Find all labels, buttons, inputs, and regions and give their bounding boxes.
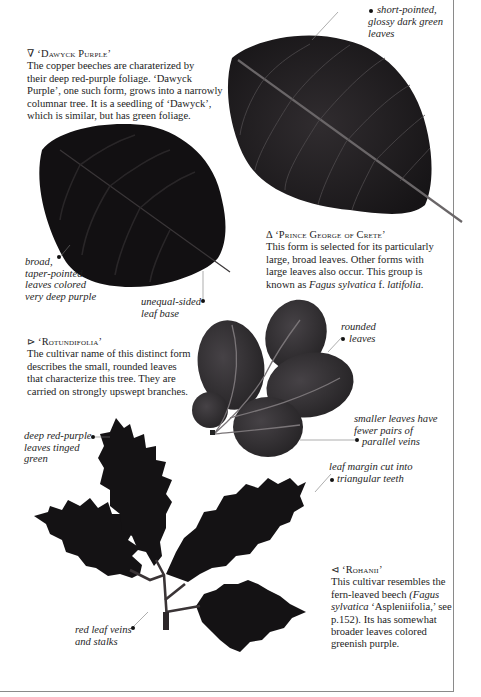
callout-dot	[201, 299, 205, 303]
annotation-red-veins: red leaf veins and stalks	[75, 624, 132, 647]
entry-dawyck-purple: ∇ ‘Dawyck Purple’ The copper beeches are…	[27, 48, 237, 122]
entry-title: ⊲ ‘Rohanii’	[331, 564, 456, 576]
annotation-unequal-sided: unequal-sided leaf base	[141, 296, 201, 319]
leaf-prince-george	[228, 35, 462, 222]
triangle-down-icon: ∇	[27, 48, 34, 59]
entry-title: ⊳ ‘Rotundifolia’	[27, 336, 207, 348]
triangle-left-icon: ⊲	[331, 564, 339, 575]
triangle-up-icon: Δ	[266, 229, 272, 240]
annotation-leaf-margin: leaf margin cut into triangular teeth	[329, 461, 412, 484]
annotation-short-pointed-cont: glossy dark green leaves	[368, 16, 443, 39]
annotation-smaller-leaves: smaller leaves have fewer pairs of paral…	[354, 413, 438, 448]
entry-prince-george-of-crete: Δ ‘Prince George of Crete’ This form is …	[266, 229, 456, 291]
leaf-rotundifolia	[191, 291, 360, 457]
triangle-right-icon: ⊳	[27, 336, 35, 347]
annotation-broad-taper-pointed: broad, taper-pointed leaves colored very…	[25, 256, 96, 302]
entry-rotundifolia: ⊳ ‘Rotundifolia’ The cultivar name of th…	[27, 336, 207, 398]
entry-title: Δ ‘Prince George of Crete’	[266, 229, 456, 241]
entry-rohanii: ⊲ ‘Rohanii’ This cultivar resembles the …	[331, 564, 456, 651]
annotation-deep-red-purple: deep red-purple leaves tinged green	[24, 430, 92, 465]
callout-dot	[369, 9, 373, 13]
annotation-short-pointed: short-pointed,	[377, 4, 437, 16]
annotation-rounded: rounded leaves	[341, 321, 376, 344]
entry-title: ∇ ‘Dawyck Purple’	[27, 48, 237, 60]
